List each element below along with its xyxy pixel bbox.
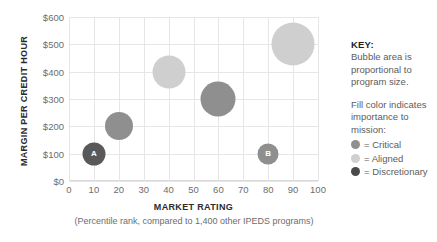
gridline-vertical [318,17,319,181]
legend-swatch-circle-icon [351,154,360,163]
y-axis-tick-labels: $0$100$200$300$400$500$600 [26,17,64,181]
x-axis-tick-label: 30 [138,184,149,195]
bubble-point[interactable] [152,55,185,88]
bubble-chart: MARGIN PER CREDIT HOUR $0$100$200$300$40… [0,0,437,242]
legend-title: KEY: [351,39,437,50]
y-axis-tick-label: $300 [26,94,64,105]
bubble-point[interactable] [201,82,236,117]
legend-item: = Critical [351,138,437,152]
legend-item: = Aligned [351,152,437,166]
legend-item-label: = Discretionary [364,166,428,177]
bubble-point[interactable] [105,112,133,140]
legend-item-label: = Aligned [364,153,403,164]
x-axis-tick-label: 0 [66,184,71,195]
bubble-point[interactable] [272,23,315,66]
y-axis-tick-label: $400 [26,66,64,77]
x-axis-tick-label: 50 [188,184,199,195]
x-axis-tick-label: 100 [310,184,326,195]
y-axis-tick-label: $0 [26,176,64,187]
gridline-horizontal [69,154,318,155]
bubble-label: B [265,150,271,158]
gridline-horizontal [69,99,318,100]
legend-swatch-circle-icon [351,140,360,149]
gridline-horizontal [69,181,318,182]
x-axis-tick-label: 70 [238,184,249,195]
plot-area: AB [69,17,318,181]
legend-note-color: Fill color indicates importance to missi… [351,99,437,137]
x-axis-tick-label: 10 [89,184,100,195]
legend-item: = Discretionary [351,165,437,179]
x-axis-tick-label: 90 [288,184,299,195]
x-axis-tick-label: 20 [114,184,125,195]
y-axis-tick-label: $100 [26,148,64,159]
legend-swatch-circle-icon [351,167,360,176]
x-axis-title: MARKET RATING [69,202,318,212]
bubble-point[interactable]: B [258,143,279,164]
bubble-point[interactable]: A [82,142,105,165]
gridline-horizontal [69,17,318,18]
y-axis-tick-label: $600 [26,12,64,23]
legend-items: = Critical= Aligned= Discretionary [351,138,437,179]
legend-item-label: = Critical [364,139,401,150]
legend: KEY: Bubble area is proportional to prog… [351,39,437,179]
x-axis-tick-label: 40 [163,184,174,195]
x-axis-subtitle: (Percentile rank, compared to 1,400 othe… [34,216,354,226]
x-axis-tick-label: 80 [263,184,274,195]
x-axis-tick-labels: 0102030405060708090100 [69,184,318,198]
y-axis-tick-label: $500 [26,39,64,50]
bubble-label: A [91,150,97,158]
x-axis-tick-label: 60 [213,184,224,195]
gridline-horizontal [69,72,318,73]
legend-note-size: Bubble area is proportional to program s… [351,51,437,89]
y-axis-tick-label: $200 [26,121,64,132]
